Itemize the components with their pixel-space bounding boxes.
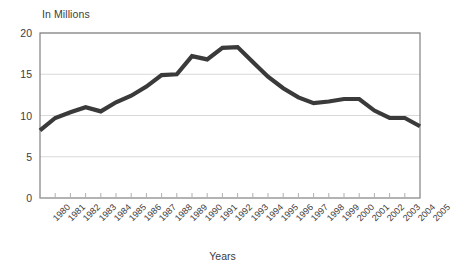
data-line — [40, 47, 420, 130]
y-tick-label: 0 — [6, 192, 32, 204]
y-tick-label: 20 — [6, 27, 32, 39]
y-tick-label: 10 — [6, 110, 32, 122]
y-tick-label: 5 — [6, 151, 32, 163]
x-axis-title: Years — [0, 250, 445, 262]
y-tick-label: 15 — [6, 68, 32, 80]
